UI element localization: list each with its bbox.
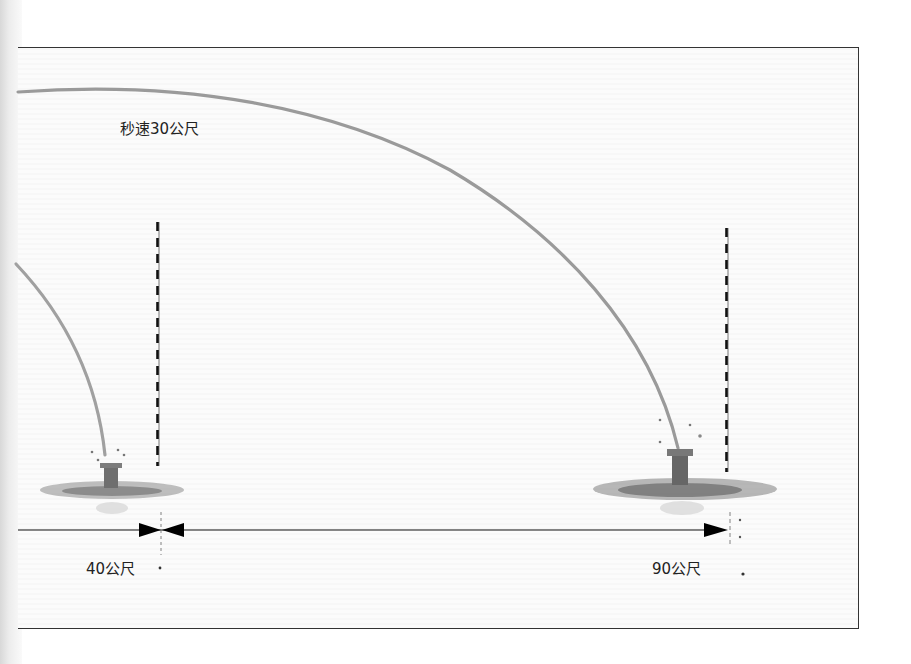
marker-line-90m	[727, 228, 729, 472]
arrowhead-90m	[704, 523, 728, 537]
marker-line-40m	[158, 222, 160, 466]
arrowhead-40m-right	[162, 523, 184, 537]
distance-label-40m: 40公尺	[86, 557, 135, 578]
distance-label-90m: 90公尺	[652, 557, 701, 578]
speed-label: 秒速30公尺	[120, 117, 199, 138]
fountain-90m	[593, 419, 777, 515]
large-trajectory-arc	[18, 89, 678, 448]
trajectory-diagram	[0, 0, 911, 664]
arrowhead-40m-left	[139, 523, 161, 537]
small-trajectory-arc	[16, 264, 105, 455]
fountain-40m	[40, 449, 184, 514]
